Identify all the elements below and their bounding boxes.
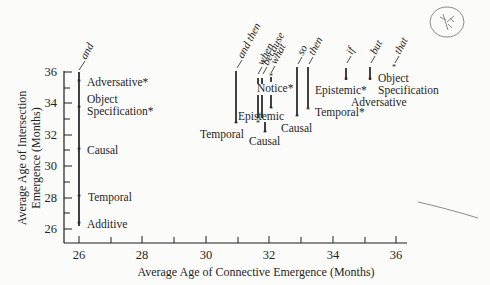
- y-axis-title: Average Age of Intersection Emergence (M…: [15, 91, 43, 226]
- svg-text:*: *: [306, 106, 310, 115]
- svg-text:*: *: [77, 78, 81, 87]
- label-and-objspec-2: Specification*: [87, 105, 154, 118]
- x-tick-34: 34: [327, 248, 340, 262]
- svg-text:*: *: [77, 220, 81, 229]
- svg-text:Average Age of Intersection: Average Age of Intersection: [15, 91, 29, 226]
- handwritten-annotation: [430, 7, 464, 37]
- x-tick-30: 30: [200, 248, 213, 262]
- x-tick-36: 36: [390, 248, 403, 262]
- y-tick-36: 36: [45, 65, 58, 79]
- label-because-causal: Causal: [249, 135, 280, 147]
- label-and-temporal: Temporal: [88, 191, 132, 204]
- label-and-additive: Additive: [87, 218, 127, 230]
- y-tick-labels: 36 34 32 30 28 26: [45, 65, 58, 236]
- connective-if: if: [343, 43, 357, 56]
- y-tick-28: 28: [45, 191, 58, 205]
- connective-that: that: [391, 34, 410, 56]
- series-that: * that Object Specification: [378, 34, 439, 97]
- label-but-adversative: Adversative: [351, 96, 407, 108]
- label-and-adversative: Adversative*: [87, 76, 149, 88]
- svg-text:*: *: [77, 146, 81, 155]
- label-that-objspec-2: Specification: [378, 84, 439, 97]
- pencil-stroke: [418, 202, 478, 218]
- label-and-causal: Causal: [87, 144, 118, 156]
- connective-then: then: [305, 34, 325, 57]
- series-if: * if Epistemic*: [315, 43, 367, 97]
- series-and-then: * and then Temporal: [200, 20, 263, 141]
- series-and: and * * * * * Adversative* Object Specif…: [77, 40, 154, 230]
- x-ticks: [79, 236, 396, 243]
- label-when-epistemic: Epistemic: [238, 110, 284, 123]
- x-axis-title: Average Age of Connective Emergence (Mon…: [137, 265, 374, 279]
- connective-but: but: [367, 37, 385, 56]
- y-ticks: [64, 72, 72, 229]
- svg-text:*: *: [269, 72, 273, 81]
- label-what-notice: Notice*: [257, 82, 294, 94]
- svg-text:*: *: [269, 105, 273, 114]
- x-tick-labels: 26 28 30 32 34 36: [73, 248, 403, 262]
- label-so-causal: Causal: [281, 122, 312, 134]
- y-tick-34: 34: [45, 96, 58, 110]
- connective-emergence-chart: 36 34 32 30 28 26 26 28 30 32 34 36 Aver…: [0, 0, 490, 285]
- x-tick-32: 32: [263, 248, 276, 262]
- svg-text:*: *: [392, 63, 396, 72]
- svg-text:*: *: [295, 113, 299, 122]
- y-tick-30: 30: [45, 159, 58, 173]
- x-tick-28: 28: [136, 248, 149, 262]
- svg-text:*: *: [77, 193, 81, 202]
- label-andthen-temporal: Temporal: [200, 128, 244, 141]
- svg-text:*: *: [77, 104, 81, 113]
- connective-and: and: [77, 40, 96, 61]
- svg-text:Emergence (Months): Emergence (Months): [29, 107, 43, 208]
- y-tick-32: 32: [45, 128, 58, 142]
- svg-text:*: *: [368, 76, 372, 85]
- x-tick-26: 26: [73, 248, 86, 262]
- y-tick-26: 26: [45, 222, 58, 236]
